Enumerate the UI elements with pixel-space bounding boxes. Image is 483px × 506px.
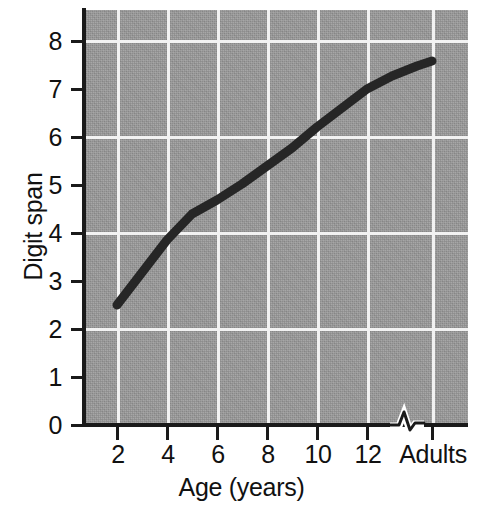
x-axis-label-4: 4 — [161, 441, 175, 468]
y-axis-label-8: 8 — [34, 29, 62, 54]
gridline-horizontal-8 — [85, 40, 468, 43]
x-axis-line — [82, 423, 468, 427]
y-axis-tick-5 — [71, 184, 83, 187]
x-axis-tick-2 — [116, 427, 119, 440]
y-axis-line — [82, 8, 86, 427]
y-axis-tick-3 — [71, 280, 83, 283]
y-axis-label-1: 1 — [34, 365, 62, 390]
y-axis-tick-2 — [71, 328, 83, 331]
gridline-vertical-adults — [432, 10, 435, 425]
gridline-horizontal-4 — [85, 232, 468, 235]
x-axis-tick-4 — [166, 427, 169, 440]
y-axis-label-0: 0 — [34, 413, 62, 438]
y-axis-tick-8 — [71, 40, 83, 43]
x-axis-label-10: 10 — [304, 441, 331, 468]
plot-background-texture — [85, 10, 468, 425]
y-axis-title: Digit span — [19, 117, 48, 337]
x-axis-tick-8 — [266, 427, 269, 440]
x-axis-tick-6 — [216, 427, 219, 440]
digit-span-line-chart: 8 7 6 5 4 3 2 1 0 2 4 6 8 10 12 Adults A… — [0, 0, 483, 506]
x-axis-tick-12 — [366, 427, 369, 440]
x-axis-label-adults: Adults — [399, 441, 467, 468]
x-axis-label-2: 2 — [111, 441, 125, 468]
x-axis-tick-adults — [431, 427, 434, 440]
y-axis-tick-4 — [71, 232, 83, 235]
x-axis-label-12: 12 — [354, 441, 381, 468]
gridline-horizontal-2 — [85, 328, 468, 331]
x-axis-title: Age (years) — [0, 473, 483, 502]
gridline-vertical-8 — [267, 10, 270, 425]
y-axis-tick-7 — [71, 88, 83, 91]
gridline-vertical-2 — [117, 10, 120, 425]
y-axis-label-7: 7 — [34, 77, 62, 102]
gridline-vertical-10 — [317, 10, 320, 425]
x-axis-label-8: 8 — [261, 441, 275, 468]
y-axis-tick-1 — [71, 376, 83, 379]
gridline-vertical-6 — [217, 10, 220, 425]
gridline-vertical-12 — [367, 10, 370, 425]
y-axis-tick-0 — [71, 424, 83, 427]
plot-area — [85, 10, 468, 425]
gridline-vertical-4 — [167, 10, 170, 425]
y-axis-tick-6 — [71, 136, 83, 139]
gridline-horizontal-6 — [85, 136, 468, 139]
x-axis-tick-10 — [316, 427, 319, 440]
x-axis-label-6: 6 — [211, 441, 225, 468]
